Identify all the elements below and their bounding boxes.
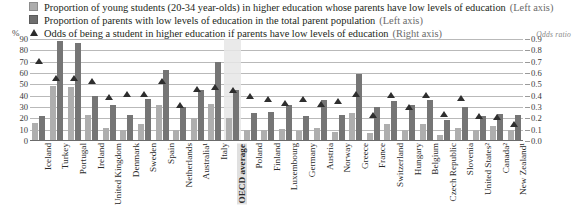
bar-parents-low-education <box>339 115 345 140</box>
right-axis: 0.90.80.70.60.50.40.30.20.10.0 <box>525 39 555 141</box>
right-axis-tick-mark <box>525 118 530 119</box>
odds-ratio-marker <box>440 111 448 117</box>
bar-group <box>100 39 118 140</box>
legend-item-label: Proportion of young students (20-34 year… <box>40 1 506 14</box>
bar-parents-low-education <box>251 113 257 140</box>
category-label: Denmark <box>118 142 136 215</box>
bar-students-low-educated-parents <box>296 131 302 140</box>
bar-group <box>453 39 471 140</box>
left-axis-tick-label: 40 <box>2 92 28 101</box>
bar-students-low-educated-parents <box>332 132 338 140</box>
odds-ratio-marker <box>229 87 237 93</box>
bar-students-low-educated-parents <box>120 130 126 140</box>
left-axis-tick-label: 80 <box>2 46 28 55</box>
odds-ratio-marker <box>457 95 465 101</box>
odds-ratio-marker <box>510 121 518 127</box>
bar-group <box>488 39 506 140</box>
odds-ratio-marker <box>70 75 78 81</box>
bar-parents-low-education <box>75 43 81 140</box>
right-axis-tick-mark <box>525 130 530 131</box>
bar-students-low-educated-parents <box>103 128 109 140</box>
odds-ratio-marker <box>123 91 131 97</box>
bar-students-low-educated-parents <box>314 128 320 140</box>
bar-group <box>505 39 523 140</box>
category-label: United States² <box>470 142 488 215</box>
odds-ratio-marker <box>352 91 360 97</box>
legend-item: Proportion of young students (20-34 year… <box>27 1 567 14</box>
bar-parents-low-education <box>286 105 292 140</box>
chart-legend: Proportion of young students (20-34 year… <box>27 1 567 40</box>
right-axis-tick-mark <box>525 62 530 63</box>
bar-students-low-educated-parents <box>490 126 496 140</box>
bar-groups <box>30 39 523 140</box>
left-axis-tick-label: 90 <box>2 35 28 44</box>
bar-group <box>30 39 48 140</box>
odds-ratio-marker <box>140 91 148 97</box>
odds-ratio-marker <box>475 113 483 119</box>
odds-ratio-marker <box>52 75 60 81</box>
bar-students-low-educated-parents <box>156 105 162 140</box>
bar-students-low-educated-parents <box>68 87 74 140</box>
right-axis-tick-label: 0.6 <box>531 69 557 78</box>
category-label: OECD average <box>224 142 242 215</box>
category-label: New Zealand¹ <box>505 142 523 215</box>
left-axis-tick-label: 0 <box>2 137 28 146</box>
right-axis-tick-label: 0.3 <box>531 103 557 112</box>
odds-ratio-marker <box>281 100 289 106</box>
left-axis-tick-label: 60 <box>2 69 28 78</box>
bar-parents-low-education <box>515 115 521 140</box>
left-axis-tick-label: 30 <box>2 103 28 112</box>
category-label: Italy <box>206 142 224 215</box>
bar-students-low-educated-parents <box>244 130 250 140</box>
category-label: Netherlands <box>171 142 189 215</box>
bar-group <box>294 39 312 140</box>
bar-group <box>259 39 277 140</box>
bar-parents-low-education <box>480 116 486 140</box>
bar-group <box>224 39 242 140</box>
odds-ratio-marker <box>176 102 184 108</box>
odds-ratio-marker <box>299 96 307 102</box>
bar-parents-low-education <box>356 74 362 140</box>
chart-figure: Proportion of young students (20-34 year… <box>0 0 575 215</box>
category-label: Norway <box>329 142 347 215</box>
bar-students-low-educated-parents <box>455 128 461 140</box>
left-axis-tick-label: 70 <box>2 58 28 67</box>
category-label: Czech Republic <box>435 142 453 215</box>
category-label: Ireland <box>83 142 101 215</box>
bar-students-low-educated-parents <box>50 86 56 140</box>
bar-group <box>365 39 383 140</box>
bar-students-low-educated-parents <box>384 124 390 140</box>
bar-group <box>400 39 418 140</box>
bar-students-low-educated-parents <box>173 130 179 140</box>
bar-group <box>312 39 330 140</box>
right-axis-tick-label: 0.0 <box>531 137 557 146</box>
bar-parents-low-education <box>110 105 116 140</box>
bar-students-low-educated-parents <box>138 124 144 140</box>
category-label: Poland <box>241 142 259 215</box>
bar-group <box>417 39 435 140</box>
bar-students-low-educated-parents <box>473 130 479 140</box>
legend-item-axis-note: (Left axis) <box>375 14 423 27</box>
bar-parents-low-education <box>215 62 221 140</box>
category-label: Austria <box>312 142 330 215</box>
bar-group <box>277 39 295 140</box>
odds-ratio-marker <box>158 78 166 84</box>
odds-ratio-marker <box>493 114 501 120</box>
bar-parents-low-education <box>427 100 433 140</box>
odds-ratio-marker <box>317 101 325 107</box>
odds-ratio-marker <box>387 92 395 98</box>
category-label: Iceland <box>30 142 48 215</box>
right-axis-tick-label: 0.8 <box>531 46 557 55</box>
right-axis-tick-mark <box>525 50 530 51</box>
right-axis-tick-mark <box>525 39 530 40</box>
category-label: Portugal <box>65 142 83 215</box>
bar-parents-low-education <box>127 115 133 140</box>
bar-group <box>347 39 365 140</box>
bar-group <box>118 39 136 140</box>
legend-item: Proportion of parents with low levels of… <box>27 14 567 27</box>
right-axis-tick-label: 0.9 <box>531 35 557 44</box>
category-label: Sweden <box>136 142 154 215</box>
odds-ratio-marker <box>422 92 430 98</box>
odds-ratio-marker <box>369 112 377 118</box>
bar-group <box>435 39 453 140</box>
